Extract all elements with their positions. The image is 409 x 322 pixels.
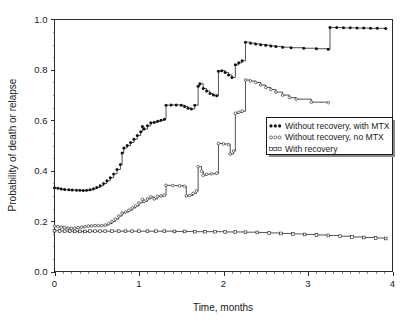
data-point-marker (165, 184, 168, 187)
data-point-marker (241, 59, 244, 62)
data-point-marker (342, 26, 345, 29)
data-point-marker (256, 231, 259, 234)
data-point-marker (146, 230, 149, 233)
data-point-marker (369, 27, 372, 30)
data-point-marker (71, 189, 74, 192)
data-point-marker (183, 105, 186, 108)
data-point-marker (78, 189, 81, 192)
legend-label: With recovery (285, 144, 338, 154)
data-point-marker (193, 230, 196, 233)
data-point-marker (134, 205, 137, 208)
data-point-marker (90, 225, 93, 228)
y-tick-labels: 0.00.20.40.60.81.0 (34, 14, 47, 277)
data-point-marker (175, 103, 178, 106)
data-point-marker (327, 48, 330, 51)
data-point-marker (117, 215, 120, 218)
data-point-marker (183, 185, 186, 188)
data-point-marker (315, 234, 318, 237)
data-point-marker (274, 45, 277, 48)
data-point-marker (356, 27, 359, 30)
data-point-marker (227, 73, 230, 76)
legend-marker (274, 124, 277, 127)
data-point-marker (109, 176, 112, 179)
data-point-marker (339, 235, 342, 238)
data-point-marker (53, 229, 56, 232)
data-point-marker (302, 47, 305, 50)
data-point-marker (63, 226, 66, 229)
data-point-marker (160, 195, 163, 198)
data-point-marker (139, 130, 142, 133)
data-point-marker (153, 198, 156, 201)
data-point-marker (244, 41, 247, 44)
data-point-marker (376, 27, 379, 30)
data-point-marker (124, 211, 127, 214)
data-point-marker (237, 61, 240, 64)
data-point-marker (234, 112, 237, 115)
x-tick-label: 2 (221, 278, 226, 289)
data-point-marker (58, 230, 61, 233)
data-point-marker (173, 230, 176, 233)
y-tick-label: 0.4 (34, 165, 47, 176)
data-point-marker (281, 94, 284, 97)
data-point-marker (70, 227, 73, 230)
data-point-marker (224, 71, 227, 74)
data-point-marker (132, 138, 135, 141)
data-point-marker (269, 44, 272, 47)
data-point-marker (197, 165, 200, 168)
data-point-marker (60, 188, 63, 191)
data-point-marker (119, 163, 122, 166)
legend-label: Without recovery, no MTX (285, 132, 384, 142)
data-point-marker (170, 103, 173, 106)
data-point-marker (68, 230, 71, 233)
data-point-marker (275, 91, 278, 94)
data-point-marker (384, 237, 387, 240)
data-point-marker (268, 232, 271, 235)
data-point-marker (327, 101, 330, 104)
legend-marker (269, 124, 272, 127)
data-point-marker (259, 84, 262, 87)
data-point-marker (143, 200, 146, 203)
data-point-marker (122, 147, 125, 150)
data-point-marker (295, 98, 298, 101)
data-point-marker (237, 111, 240, 114)
data-point-marker (155, 230, 158, 233)
data-point-marker (202, 174, 205, 177)
data-point-marker (126, 144, 129, 147)
data-point-marker (131, 207, 134, 210)
data-point-marker (241, 110, 244, 113)
data-point-marker (280, 232, 283, 235)
data-point-marker (73, 230, 76, 233)
x-axis-ticks (56, 272, 394, 276)
data-point-marker (105, 179, 108, 182)
data-point-marker (63, 230, 66, 233)
data-point-marker (156, 120, 159, 123)
data-point-marker (94, 224, 97, 227)
data-point-marker (197, 85, 200, 88)
legend-marker (270, 136, 273, 139)
data-point-marker (100, 224, 103, 227)
series-0 (53, 26, 387, 192)
data-point-marker (63, 188, 66, 191)
data-point-marker (84, 225, 87, 228)
x-tick-labels: 01234 (52, 278, 395, 289)
data-point-marker (192, 192, 195, 195)
y-tick-label: 0.0 (34, 266, 47, 277)
data-point-marker (77, 226, 80, 229)
data-point-marker (310, 101, 313, 104)
data-point-marker (79, 230, 82, 233)
data-point-marker (291, 233, 294, 236)
data-point-marker (163, 230, 166, 233)
data-point-marker (208, 92, 211, 95)
data-point-marker (138, 230, 141, 233)
legend-marker (278, 124, 281, 127)
x-axis-title: Time, months (193, 302, 253, 313)
data-point-marker (104, 230, 107, 233)
data-point-marker (112, 172, 115, 175)
data-point-marker (212, 94, 215, 97)
data-point-marker (111, 230, 114, 233)
data-point-marker (171, 184, 174, 187)
data-point-marker (232, 150, 235, 153)
data-point-marker (254, 42, 257, 45)
data-point-marker (56, 187, 59, 190)
data-point-marker (121, 212, 124, 215)
